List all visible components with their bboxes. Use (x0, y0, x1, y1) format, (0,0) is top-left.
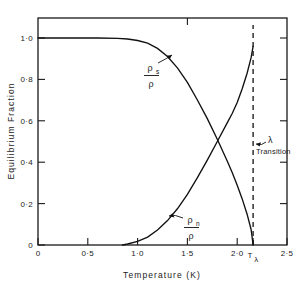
label-rho-n-over-rho: ρ n ρ (169, 213, 200, 241)
y-tick-labels: 0 0·2 0·4 0·6 0·8 1·0 (21, 34, 34, 250)
y-tick-label-1-0: 1·0 (21, 34, 34, 43)
x-tick-label-1-5: 1·5 (181, 249, 194, 258)
y-tick-label-0-4: 0·4 (21, 158, 34, 167)
x-tick-label-2-5: 2·5 (281, 249, 294, 258)
x-axis-ticks (38, 238, 287, 245)
lambda-transition-arrow-head (256, 142, 261, 146)
x-tick-label-0-5: 0·5 (82, 249, 95, 258)
lambda-transition-word: Transition (256, 147, 291, 156)
rho-n-numerator: ρ (187, 215, 192, 225)
rho-s-numerator: ρ (147, 63, 152, 73)
y-tick-label-0-8: 0·8 (21, 75, 34, 84)
rho-n-subscript: n (196, 220, 200, 227)
label-rho-s-over-rho: ρ s ρ (144, 55, 172, 89)
y-axis-ticks-right (280, 38, 287, 204)
rho-n-denominator: ρ (188, 231, 193, 241)
rho-s-subscript: s (156, 68, 160, 75)
t-lambda-subscript: λ (254, 255, 258, 264)
chart-svg: 0 0·5 1·0 1·5 2·0 2·5 T λ 0 0·2 0·4 0·6 … (0, 0, 305, 292)
t-lambda-letter: T (247, 251, 252, 260)
x-tick-label-0: 0 (36, 249, 41, 258)
y-tick-label-0-6: 0·6 (21, 117, 34, 126)
rho-s-denominator: ρ (148, 79, 153, 89)
y-tick-label-0-2: 0·2 (21, 200, 34, 209)
t-lambda-label: T λ (247, 251, 258, 264)
annotation-lambda-transition: λ Transition (256, 135, 291, 156)
figure-container: 0 0·5 1·0 1·5 2·0 2·5 T λ 0 0·2 0·4 0·6 … (0, 0, 305, 292)
y-tick-label-0: 0 (28, 241, 33, 250)
x-axis-title: Temperature (K) (123, 270, 201, 280)
curve-superfluid-fraction (38, 38, 253, 245)
y-axis-ticks-left (38, 38, 45, 245)
x-tick-label-2-0: 2·0 (231, 249, 244, 258)
y-axis-title: Equilibrium Fraction (6, 82, 16, 179)
lambda-transition-symbol: λ (268, 135, 273, 145)
x-tick-label-1-0: 1·0 (131, 249, 144, 258)
